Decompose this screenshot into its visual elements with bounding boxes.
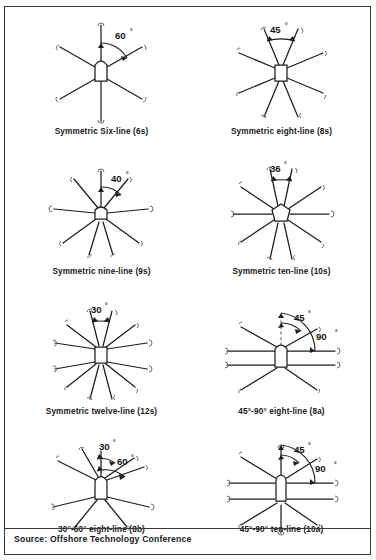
degree-symbol-0: ° — [105, 302, 108, 309]
hub-8s — [275, 65, 287, 81]
caption-6s: Symmetric Six-line (6s) — [11, 127, 192, 136]
degree-symbol-0: ° — [308, 310, 311, 317]
diagram-8s: 45 ° — [191, 15, 372, 131]
caption-8s: Symmetric eight-line (8s) — [191, 127, 372, 136]
caption-8b: 30°-60° eight-line (8b) — [11, 525, 192, 534]
degree-symbol-0: ° — [126, 171, 129, 178]
angle-arc-60 — [101, 43, 127, 58]
diagram-12s: 30 ° — [11, 295, 192, 411]
hub-10a — [276, 475, 286, 501]
degree-symbol-0: ° — [285, 22, 288, 29]
angle-label-1: 90 — [315, 463, 326, 474]
hub-12s — [95, 347, 107, 363]
hub-9s — [95, 207, 107, 219]
caption-12s: Symmetric twelve-line (12s) — [11, 407, 192, 416]
angle-arc-45 — [281, 323, 301, 331]
diagram-panel-10s: 36 ° Symmetric ten-line (10s) — [191, 155, 372, 291]
diagram-10s: 36 ° — [191, 155, 372, 271]
caption-8a: 45°-90° eight-line (8a) — [191, 407, 372, 416]
angle-arc-90 — [281, 445, 315, 483]
diagram-grid: 60 ° Symmetric Six-line (6s) — [5, 7, 370, 522]
degree-symbol-1: ° — [335, 329, 338, 336]
angle-label-0: 40 — [111, 173, 122, 184]
degree-symbol-1: ° — [131, 454, 134, 461]
source-note: Source: Offshore Technology Conference — [14, 534, 191, 544]
hub-10s — [272, 204, 290, 221]
angle-label-1: 90 — [316, 331, 327, 342]
diagram-panel-9s: 40 ° Symmetric nine-line (9s) — [11, 155, 192, 291]
degree-symbol-1: ° — [334, 461, 337, 468]
degree-symbol-0: ° — [284, 161, 287, 168]
caption-10s: Symmetric ten-line (10s) — [191, 267, 372, 276]
caption-10a: 45°-90° ten-line (10a) — [191, 525, 372, 534]
degree-symbol-0: ° — [308, 442, 311, 449]
source-divider — [5, 528, 370, 529]
angle-label-0: 60 — [115, 30, 126, 41]
caption-9s: Symmetric nine-line (9s) — [11, 267, 192, 276]
angle-label-0: 30 — [99, 441, 110, 452]
hub-6s — [95, 61, 107, 81]
diagram-panel-10a: 45 ° 90 ° 45°-90° ten-line (10a) — [191, 427, 372, 560]
diagram-8a: 45 ° 90 ° — [191, 295, 372, 411]
diagram-panel-12s: 30 ° Symmetric twelve-line (12s) — [11, 295, 192, 431]
angle-label-0: 45 — [270, 24, 281, 35]
diagram-panel-8a: 45 ° 90 ° 45°-90° eight-line (8a) — [191, 295, 372, 431]
angle-label-0: 30 — [91, 304, 102, 315]
angle-label-0: 36 — [270, 163, 281, 174]
diagram-panel-8s: 45 ° Symmetric eight-line (8s) — [191, 15, 372, 151]
degree-symbol-0: ° — [113, 439, 116, 446]
hub-8b — [95, 477, 107, 500]
figure-frame: 60 ° Symmetric Six-line (6s) — [4, 6, 371, 555]
degree-symbol-0: ° — [130, 28, 133, 35]
angle-label-1: 60 — [117, 456, 128, 467]
diagram-9s: 40 ° — [11, 155, 192, 271]
hub-8a — [275, 345, 287, 367]
diagram-6s: 60 ° — [11, 15, 192, 131]
diagram-panel-6s: 60 ° Symmetric Six-line (6s) — [11, 15, 192, 151]
